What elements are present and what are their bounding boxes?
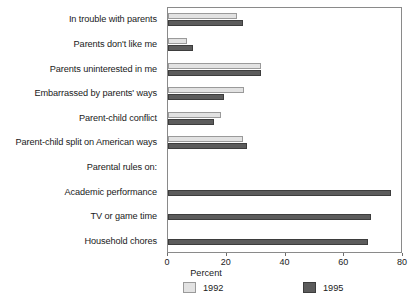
bar-1992-5 bbox=[168, 136, 243, 142]
category-label: Embarrassed by parents' ways bbox=[34, 88, 157, 98]
x-tick-label: 40 bbox=[279, 257, 289, 267]
category-label: Household chores bbox=[85, 236, 157, 246]
bar-1995-8 bbox=[168, 214, 371, 220]
category-label: Parents uninterested in me bbox=[50, 64, 157, 74]
legend-label: 1992 bbox=[203, 283, 223, 293]
plot-area bbox=[167, 7, 402, 253]
x-tick bbox=[226, 253, 227, 256]
legend-label: 1995 bbox=[323, 283, 343, 293]
bar-1992-2 bbox=[168, 63, 261, 69]
bar-1995-4 bbox=[168, 119, 214, 125]
category-label: Parent-child conflict bbox=[79, 113, 157, 123]
x-axis-title: Percent bbox=[0, 268, 412, 278]
x-tick bbox=[343, 253, 344, 256]
bar-1995-0 bbox=[168, 20, 243, 26]
horizontal-bar-chart: In trouble with parentsParents don't lik… bbox=[0, 0, 412, 305]
category-label: Academic performance bbox=[65, 187, 157, 197]
bar-1995-1 bbox=[168, 45, 193, 51]
bar-1992-3 bbox=[168, 87, 244, 93]
dark-swatch-icon bbox=[303, 282, 316, 293]
x-tick bbox=[285, 253, 286, 256]
x-axis: 020406080 bbox=[167, 253, 402, 254]
x-tick-label: 20 bbox=[221, 257, 231, 267]
legend-item-1992: 1992 bbox=[183, 282, 223, 293]
x-tick bbox=[167, 253, 168, 256]
bar-1992-4 bbox=[168, 112, 221, 118]
bar-1992-1 bbox=[168, 38, 187, 44]
bar-1995-2 bbox=[168, 70, 261, 76]
bar-1995-9 bbox=[168, 239, 368, 245]
category-label: In trouble with parents bbox=[69, 14, 157, 24]
x-tick-label: 80 bbox=[397, 257, 407, 267]
x-tick-label: 0 bbox=[164, 257, 169, 267]
x-tick-label: 60 bbox=[338, 257, 348, 267]
bar-1995-3 bbox=[168, 94, 224, 100]
x-tick bbox=[402, 253, 403, 256]
category-label: Parental rules on: bbox=[87, 162, 157, 172]
category-label: Parents don't like me bbox=[74, 39, 157, 49]
bar-1995-7 bbox=[168, 190, 391, 196]
light-swatch-icon bbox=[183, 282, 196, 293]
bars-container bbox=[168, 8, 401, 252]
category-axis-labels: In trouble with parentsParents don't lik… bbox=[0, 7, 163, 253]
legend: 1992 1995 bbox=[0, 282, 412, 298]
category-label: Parent-child split on American ways bbox=[15, 137, 157, 147]
bar-1995-5 bbox=[168, 143, 247, 149]
legend-item-1995: 1995 bbox=[303, 282, 343, 293]
category-label: TV or game time bbox=[91, 211, 157, 221]
bar-1992-0 bbox=[168, 13, 237, 19]
